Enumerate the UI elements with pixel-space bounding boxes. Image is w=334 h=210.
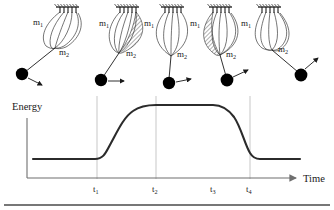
panel-2-label-m2: m2 (126, 48, 136, 59)
panel-2: m1 m2 (95, 4, 143, 86)
ceiling-support-icon (160, 4, 185, 13)
panel-1-tether (25, 48, 55, 72)
panel-2-label-m1: m1 (99, 18, 109, 29)
panel-5-label-m2: m2 (278, 44, 288, 55)
panel-4-bob (221, 74, 234, 87)
panel-1-label-m2: m2 (59, 47, 69, 58)
panel-3-tether (169, 56, 171, 79)
panel-3: m1 m2 (144, 4, 191, 89)
panel-3-label-m1: m1 (144, 18, 154, 29)
panel-5: m1 m2 (241, 4, 318, 81)
spring-fibers (43, 12, 81, 49)
panel-5-label-m1: m1 (241, 18, 251, 29)
ceiling-support-icon (257, 4, 282, 13)
panel-4-label-m1: m1 (190, 18, 200, 29)
pendulum-energy-figure: m1 m2 m1 (0, 0, 334, 210)
ceiling-support-icon (115, 4, 140, 13)
panel-4: m1 m2 (190, 4, 248, 86)
panel-4-label-m2: m2 (226, 49, 236, 60)
panel-2-tether (103, 53, 119, 77)
x-axis-label: Time (303, 173, 325, 184)
tick-label-t3: t3 (210, 184, 216, 195)
tick-label-t1: t1 (93, 184, 99, 195)
panel-1-bob (16, 68, 28, 80)
energy-curve (33, 105, 300, 159)
gridlines (97, 96, 250, 179)
panel-3-bob (163, 77, 175, 89)
panel-5-velocity-arrow (305, 58, 318, 69)
energy-time-chart: Energy Time t1 t2 t3 t4 (12, 96, 325, 195)
tick-label-t2: t2 (152, 184, 158, 195)
ceiling-support-icon (208, 4, 233, 13)
panel-3-velocity-arrow (176, 79, 191, 82)
panel-1-velocity-arrow (28, 78, 42, 85)
panel-2-bob (95, 74, 107, 86)
y-axis-label: Energy (12, 101, 43, 112)
panel-4-velocity-arrow (233, 70, 248, 77)
panel-5-bob (295, 69, 308, 82)
tick-label-t4: t4 (246, 184, 252, 195)
panel-1: m1 m2 (16, 4, 81, 85)
panel-1-label-m1: m1 (33, 17, 43, 28)
ceiling-support-icon (55, 4, 80, 13)
panel-3-label-m2: m2 (177, 49, 187, 60)
